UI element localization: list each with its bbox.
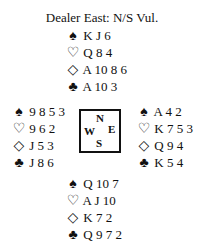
- spade-icon: ♠: [66, 27, 80, 44]
- compass-east: E: [108, 123, 115, 135]
- diamond-icon: ◇: [66, 209, 80, 226]
- south-clubs: ♣ Q 9 7 2: [66, 226, 122, 243]
- east-spades: ♠ A 4 2: [137, 103, 193, 120]
- diamond-icon: ◇: [12, 137, 26, 154]
- compass-box: N W E S: [79, 109, 121, 153]
- spade-icon: ♠: [137, 103, 151, 120]
- compass-north: N: [96, 112, 104, 124]
- south-hand: ♠ Q 10 7 ♡ A J 10 ◇ K 7 2 ♣ Q 9 7 2: [66, 175, 122, 243]
- heart-icon: ♡: [66, 192, 80, 209]
- club-icon: ♣: [66, 226, 80, 243]
- compass-south: S: [96, 137, 102, 149]
- west-clubs: ♣ J 8 6: [12, 154, 65, 171]
- south-hearts: ♡ A J 10: [66, 192, 122, 209]
- compass-west: W: [84, 125, 95, 137]
- west-hand: ♠ 9 8 5 3 ♡ 9 6 2 ◇ J 5 3 ♣ J 8 6: [12, 103, 65, 171]
- deal-title: Dealer East: N/S Vul.: [0, 10, 204, 26]
- west-diamonds: ◇ J 5 3: [12, 137, 65, 154]
- west-hearts: ♡ 9 6 2: [12, 120, 65, 137]
- north-hand: ♠ K J 6 ♡ Q 8 4 ◇ A 10 8 6 ♣ A 10 3: [66, 27, 127, 95]
- heart-icon: ♡: [66, 44, 80, 61]
- east-hand: ♠ A 4 2 ♡ K 7 5 3 ◇ Q 9 4 ♣ K 5 4: [137, 103, 193, 171]
- north-hearts: ♡ Q 8 4: [66, 44, 127, 61]
- east-hearts: ♡ K 7 5 3: [137, 120, 193, 137]
- diamond-icon: ◇: [137, 137, 151, 154]
- west-spades: ♠ 9 8 5 3: [12, 103, 65, 120]
- south-diamonds: ◇ K 7 2: [66, 209, 122, 226]
- club-icon: ♣: [137, 154, 151, 171]
- east-clubs: ♣ K 5 4: [137, 154, 193, 171]
- north-clubs: ♣ A 10 3: [66, 78, 127, 95]
- club-icon: ♣: [66, 78, 80, 95]
- east-diamonds: ◇ Q 9 4: [137, 137, 193, 154]
- spade-icon: ♠: [12, 103, 26, 120]
- heart-icon: ♡: [137, 120, 151, 137]
- south-spades: ♠ Q 10 7: [66, 175, 122, 192]
- diamond-icon: ◇: [66, 61, 80, 78]
- spade-icon: ♠: [66, 175, 80, 192]
- heart-icon: ♡: [12, 120, 26, 137]
- north-diamonds: ◇ A 10 8 6: [66, 61, 127, 78]
- north-spades: ♠ K J 6: [66, 27, 127, 44]
- club-icon: ♣: [12, 154, 26, 171]
